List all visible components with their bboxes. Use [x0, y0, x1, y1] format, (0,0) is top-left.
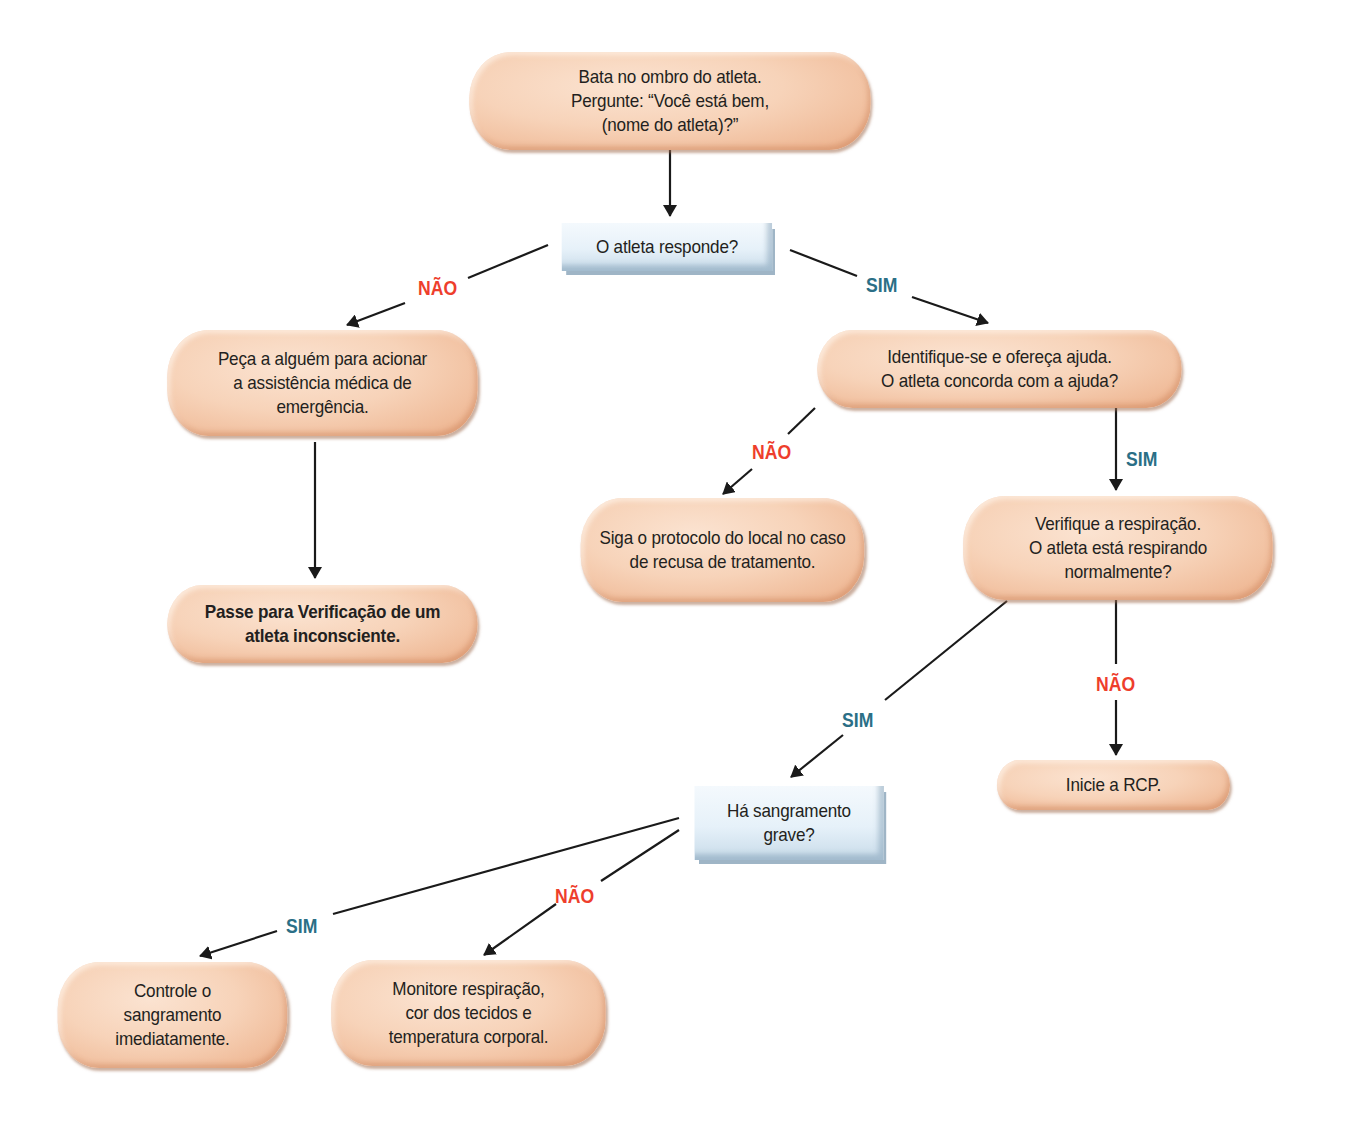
- node-unconscious-check: Passe para Verificação de um atleta inco…: [167, 585, 478, 663]
- edge-label-yes: SIM: [286, 915, 317, 937]
- edge-label-no: NÃO: [1096, 673, 1135, 695]
- node-call-ems: Peça a alguém para acionar a assistência…: [167, 330, 478, 436]
- edge-bleeding-monitor: [484, 904, 556, 955]
- edge-breathing-bleeding: [791, 735, 843, 777]
- edge-label-yes: SIM: [866, 274, 897, 296]
- edge-label-yes: SIM: [1126, 448, 1157, 470]
- node-monitor-vitals: Monitore respiração, cor dos tecidos e t…: [331, 960, 606, 1066]
- node-check-breathing: Verifique a respiração. O atleta está re…: [963, 496, 1273, 600]
- edge-responds-identify: [912, 297, 988, 323]
- edge-label-no: NÃO: [752, 441, 791, 463]
- edge-responds-callems: [347, 303, 405, 325]
- decision-athlete-responds: O atleta responde?: [562, 223, 773, 271]
- edge-bleeding-control: [200, 931, 277, 956]
- node-refusal-protocol: Siga o protocolo do local no caso de rec…: [581, 498, 865, 602]
- node-identify-offer-help: Identifique-se e ofereça ajuda. O atleta…: [817, 330, 1182, 408]
- edge-label-no: NÃO: [418, 277, 457, 299]
- decision-severe-bleeding: Há sangramento grave?: [695, 786, 884, 860]
- node-tap-shoulder: Bata no ombro do atleta. Pergunte: “Você…: [469, 52, 870, 150]
- edge-identify-refusal: [723, 469, 752, 494]
- flowchart-canvas: Bata no ombro do atleta. Pergunte: “Você…: [0, 0, 1354, 1123]
- node-control-bleeding: Controle o sangramento imediatamente.: [58, 962, 288, 1068]
- edge-label-no: NÃO: [555, 885, 594, 907]
- node-start-cpr: Inicie a RCP.: [997, 760, 1230, 810]
- edge-label-yes: SIM: [842, 709, 873, 731]
